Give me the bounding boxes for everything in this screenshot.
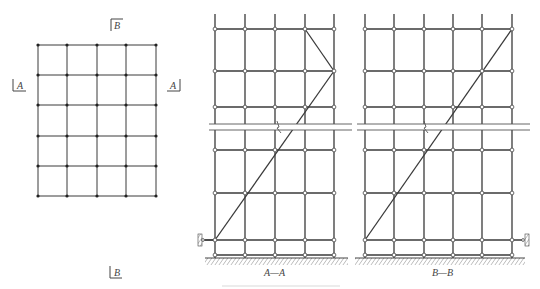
marker-label: B xyxy=(114,20,120,31)
section-b-nodes xyxy=(363,27,514,257)
scaffold-diagram: B B A A xyxy=(0,0,540,289)
break-band xyxy=(357,124,530,130)
figure-caption xyxy=(222,285,340,287)
marker-label: A xyxy=(16,80,24,91)
section-marker-a-left: A xyxy=(13,79,26,91)
section-marker-b-top: B xyxy=(111,19,123,31)
plan-view xyxy=(38,45,156,196)
marker-label: A xyxy=(169,80,177,91)
section-b-title: B—B xyxy=(432,267,453,278)
section-marker-b-bottom: B xyxy=(110,266,122,278)
wall-tie-left xyxy=(198,234,215,246)
break-band xyxy=(209,124,352,130)
section-marker-a-right: A xyxy=(167,79,180,91)
section-a-a: A—A xyxy=(198,14,352,278)
wall-tie-right xyxy=(522,234,529,246)
ground-hatch xyxy=(205,258,348,265)
section-a-title: A—A xyxy=(263,267,286,278)
marker-label: B xyxy=(114,267,120,278)
section-b-b: B—B xyxy=(355,14,530,278)
ground-hatch xyxy=(355,258,525,265)
